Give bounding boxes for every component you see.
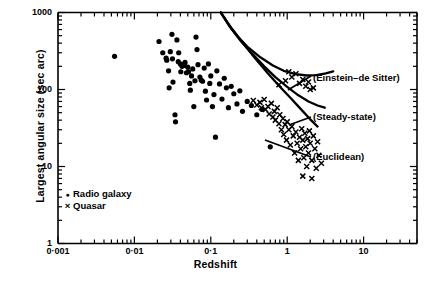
- data-point-quasar: [295, 141, 300, 146]
- legend-item-label: Quasar: [73, 200, 106, 211]
- y-axis-title: Largest angular size (sec arc): [34, 26, 46, 226]
- data-point-radio-galaxy: [249, 103, 254, 108]
- y-tick-label: 1: [8, 238, 52, 248]
- data-point-quasar: [284, 138, 289, 143]
- legend-item: ●Radio galaxy: [62, 188, 132, 199]
- x-axis-title: Redshift: [0, 258, 431, 270]
- data-point-radio-galaxy: [195, 62, 200, 67]
- data-point-radio-galaxy: [204, 97, 209, 102]
- data-point-quasar: [281, 132, 286, 137]
- data-point-quasar: [306, 80, 311, 85]
- data-point-quasar: [299, 126, 304, 131]
- data-point-radio-galaxy: [166, 68, 171, 73]
- data-point-radio-galaxy: [191, 104, 196, 109]
- data-point-radio-galaxy: [185, 65, 190, 70]
- data-point-radio-galaxy: [189, 73, 194, 78]
- data-point-quasar: [262, 97, 267, 102]
- data-point-quasar: [305, 136, 310, 141]
- data-point-quasar: [288, 143, 293, 148]
- data-point-quasar: [308, 141, 313, 146]
- leader-line-steady-state: [289, 117, 311, 125]
- data-point-radio-galaxy: [170, 56, 175, 61]
- x-tick-label: 1: [257, 246, 317, 256]
- data-point-radio-galaxy: [156, 39, 161, 44]
- data-point-quasar: [302, 131, 307, 136]
- y-tick-label: 10: [8, 161, 52, 171]
- data-point-quasar: [298, 146, 303, 151]
- data-point-radio-galaxy: [182, 60, 187, 65]
- data-point-radio-galaxy: [229, 84, 234, 89]
- data-point-quasar: [309, 176, 314, 181]
- data-point-radio-galaxy: [169, 32, 174, 37]
- data-point-radio-galaxy: [211, 92, 216, 97]
- x-tick-label: 10: [334, 246, 394, 256]
- data-point-radio-galaxy: [219, 97, 224, 102]
- curve-label: (Euclidean): [313, 151, 364, 162]
- filled-circle-icon: ●: [62, 191, 73, 198]
- data-point-quasar: [301, 155, 306, 160]
- data-point-radio-galaxy: [268, 144, 273, 149]
- data-point-radio-galaxy: [194, 47, 199, 52]
- x-tick-label: 0·001: [28, 246, 88, 256]
- data-point-radio-galaxy: [207, 81, 212, 86]
- data-point-radio-galaxy: [187, 81, 192, 86]
- curve-einstein-de-sitter: [221, 13, 333, 76]
- data-point-radio-galaxy: [213, 135, 218, 140]
- data-point-quasar: [283, 78, 288, 83]
- data-point-radio-galaxy: [112, 54, 117, 59]
- data-point-radio-galaxy: [254, 112, 259, 117]
- data-point-radio-galaxy: [186, 69, 191, 74]
- figure: Redshift Largest angular size (sec arc) …: [0, 0, 431, 281]
- data-point-quasar: [306, 150, 311, 155]
- data-point-radio-galaxy: [234, 101, 239, 106]
- data-point-radio-galaxy: [190, 66, 195, 71]
- data-point-radio-galaxy: [192, 78, 197, 83]
- data-point-radio-galaxy: [231, 91, 236, 96]
- data-point-radio-galaxy: [202, 65, 207, 70]
- data-point-quasar: [315, 139, 320, 144]
- data-point-radio-galaxy: [222, 76, 227, 81]
- cross-icon: ×: [62, 200, 73, 211]
- data-point-quasar: [279, 127, 284, 132]
- data-point-radio-galaxy: [200, 79, 205, 84]
- y-tick-label: 1000: [8, 7, 52, 17]
- data-point-quasar: [257, 100, 262, 105]
- chart-canvas: [0, 0, 431, 281]
- data-point-radio-galaxy: [245, 99, 250, 104]
- data-point-radio-galaxy: [193, 34, 198, 39]
- y-tick-label: 100: [8, 84, 52, 94]
- x-tick-label: 0·1: [181, 246, 241, 256]
- data-point-radio-galaxy: [174, 37, 179, 42]
- x-tick-label: 0·01: [104, 246, 164, 256]
- data-point-quasar: [300, 138, 305, 143]
- data-point-radio-galaxy: [173, 119, 178, 124]
- data-point-radio-galaxy: [170, 79, 175, 84]
- data-point-radio-galaxy: [203, 89, 208, 94]
- data-point-radio-galaxy: [160, 50, 165, 55]
- legend-item-label: Radio galaxy: [73, 188, 132, 199]
- data-point-quasar: [311, 133, 316, 138]
- data-point-quasar: [269, 101, 274, 106]
- curve-label: (Steady-state): [313, 111, 376, 122]
- data-point-radio-galaxy: [188, 88, 193, 93]
- data-point-radio-galaxy: [214, 68, 219, 73]
- data-point-quasar: [296, 158, 301, 163]
- data-point-radio-galaxy: [176, 50, 181, 55]
- legend-item: ×Quasar: [62, 200, 106, 211]
- data-point-quasar: [307, 128, 312, 133]
- curve-label: (Einstein–de Sitter): [313, 72, 400, 83]
- data-point-radio-galaxy: [210, 104, 215, 109]
- data-point-quasar: [276, 121, 281, 126]
- data-point-quasar: [304, 164, 309, 169]
- data-point-radio-galaxy: [178, 69, 183, 74]
- data-point-radio-galaxy: [167, 85, 172, 90]
- data-point-radio-galaxy: [164, 58, 169, 63]
- data-point-radio-galaxy: [206, 61, 211, 66]
- data-point-radio-galaxy: [208, 73, 213, 78]
- data-point-radio-galaxy: [172, 112, 177, 117]
- data-point-radio-galaxy: [224, 85, 229, 90]
- data-point-quasar: [300, 174, 305, 179]
- data-point-radio-galaxy: [217, 81, 222, 86]
- data-point-quasar: [303, 84, 308, 89]
- data-point-radio-galaxy: [168, 49, 173, 54]
